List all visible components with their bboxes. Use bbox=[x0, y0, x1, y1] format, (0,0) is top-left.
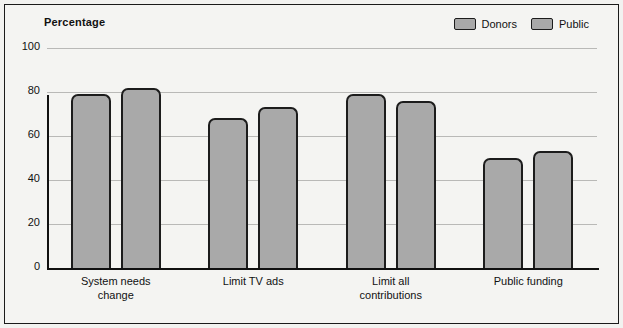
x-axis-line bbox=[47, 268, 599, 270]
bar-public-1 bbox=[258, 107, 298, 268]
y-axis-title: Percentage bbox=[44, 16, 105, 28]
y-axis-tick-label: 40 bbox=[0, 172, 40, 184]
bar-public-3 bbox=[533, 151, 573, 268]
x-axis-label-line: System needs bbox=[46, 274, 186, 288]
x-axis-category-label: Limit allcontributions bbox=[321, 274, 461, 302]
legend-swatch-icon bbox=[531, 18, 553, 30]
bar-donors-1 bbox=[208, 118, 248, 268]
y-axis-tick-label: 0 bbox=[0, 260, 40, 272]
x-axis-label-line: contributions bbox=[321, 288, 461, 302]
x-axis-label-line: change bbox=[46, 288, 186, 302]
chart-container: Percentage Donors Public 020406080100 Sy… bbox=[0, 0, 623, 328]
legend-swatch-icon bbox=[454, 18, 476, 30]
x-axis-label-line: Public funding bbox=[458, 274, 598, 288]
y-axis-line bbox=[47, 95, 49, 270]
plot-area bbox=[47, 48, 597, 268]
legend-label-public: Public bbox=[559, 18, 589, 30]
y-axis-tick-labels: 020406080100 bbox=[0, 48, 40, 268]
bar-public-2 bbox=[396, 101, 436, 268]
bar-donors-0 bbox=[71, 94, 111, 268]
bar-donors-2 bbox=[346, 94, 386, 268]
legend-item-donors: Donors bbox=[454, 18, 517, 30]
y-axis-tick-label: 80 bbox=[0, 84, 40, 96]
legend-label-donors: Donors bbox=[482, 18, 517, 30]
y-axis-tick-label: 100 bbox=[0, 40, 40, 52]
x-axis-category-labels: System needschangeLimit TV adsLimit allc… bbox=[47, 274, 599, 318]
x-axis-category-label: System needschange bbox=[46, 274, 186, 302]
chart-legend: Donors Public bbox=[454, 18, 589, 30]
y-axis-tick-label: 20 bbox=[0, 216, 40, 228]
x-axis-category-label: Limit TV ads bbox=[183, 274, 323, 288]
bar-donors-3 bbox=[483, 158, 523, 268]
bar-public-0 bbox=[121, 88, 161, 268]
x-axis-category-label: Public funding bbox=[458, 274, 598, 288]
x-axis-label-line: Limit all bbox=[321, 274, 461, 288]
y-axis-tick-label: 60 bbox=[0, 128, 40, 140]
bar-series-group bbox=[47, 48, 597, 268]
x-axis-label-line: Limit TV ads bbox=[183, 274, 323, 288]
legend-item-public: Public bbox=[531, 18, 589, 30]
